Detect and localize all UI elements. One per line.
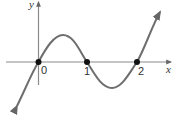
tick-label-1: 1 — [84, 65, 90, 77]
tick-label-2: 2 — [138, 65, 144, 77]
y-axis-label: y — [28, 0, 34, 10]
chart: 0 1 2 x y — [0, 0, 174, 116]
tick-label-0: 0 — [41, 64, 47, 76]
x-axis-label: x — [165, 63, 171, 75]
